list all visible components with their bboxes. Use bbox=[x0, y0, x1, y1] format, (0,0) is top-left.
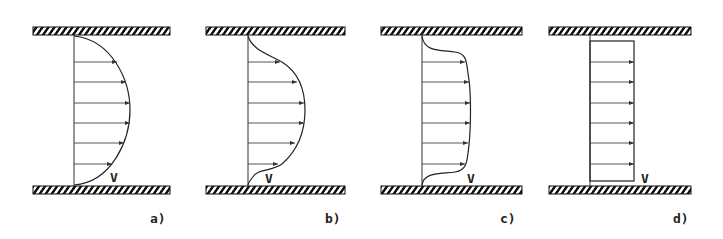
top-wall bbox=[381, 27, 522, 35]
velocity-symbol: V bbox=[467, 171, 475, 186]
panel-a: V a) bbox=[33, 27, 170, 226]
velocity-profile-curve bbox=[74, 36, 130, 185]
panel-label: c) bbox=[500, 211, 516, 226]
velocity-profile-curve bbox=[422, 36, 471, 185]
bottom-wall bbox=[33, 186, 170, 194]
panel-label: a) bbox=[150, 211, 166, 226]
bottom-wall bbox=[206, 186, 345, 194]
panel-b: V b) bbox=[206, 27, 345, 226]
panel-label: d) bbox=[673, 211, 689, 226]
top-wall bbox=[33, 27, 170, 35]
bottom-wall bbox=[549, 186, 691, 194]
top-wall bbox=[549, 27, 691, 35]
bottom-wall bbox=[381, 186, 522, 194]
top-wall bbox=[206, 27, 345, 35]
velocity-arrows bbox=[422, 62, 470, 164]
velocity-arrows bbox=[590, 62, 634, 164]
velocity-profile-curve bbox=[248, 36, 305, 185]
panel-label: b) bbox=[325, 211, 341, 226]
velocity-symbol: V bbox=[265, 171, 273, 186]
velocity-symbol: V bbox=[641, 171, 649, 186]
panel-c: V c) bbox=[381, 27, 522, 226]
panel-d: V d) bbox=[549, 27, 691, 226]
velocity-profiles-diagram: V a) V b) V c) bbox=[0, 0, 723, 239]
velocity-symbol: V bbox=[110, 170, 118, 185]
